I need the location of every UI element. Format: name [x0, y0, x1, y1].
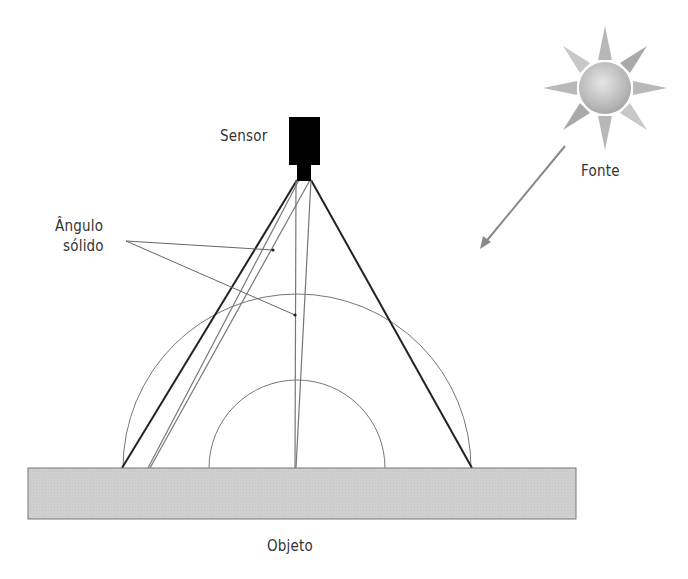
- object-surface: [28, 468, 576, 519]
- solid-angle-pointer-1: [126, 241, 273, 250]
- solid-angle-cone-1b: [150, 180, 310, 468]
- sun-icon: [543, 26, 667, 150]
- pointer-dot-2: [293, 313, 296, 316]
- solid-angle-cone-1a: [148, 180, 299, 468]
- diagram-canvas: [0, 0, 688, 579]
- fov-line-right: [311, 180, 472, 468]
- source-label: Fonte: [581, 162, 620, 180]
- object-label: Objeto: [267, 537, 313, 555]
- sensor-label: Sensor: [220, 127, 267, 145]
- fov-line-left: [122, 180, 297, 468]
- solid-angle-label-line1: Ângulo: [55, 217, 103, 235]
- pointer-dot-1: [271, 248, 274, 251]
- sensor-camera-icon: [289, 117, 320, 181]
- arrow-down-left-icon: [480, 146, 565, 249]
- solid-angle-cone-2a: [295, 180, 296, 468]
- solid-angle-cone-2b: [296, 180, 311, 468]
- solid-angle-label-line2: sólido: [63, 237, 104, 255]
